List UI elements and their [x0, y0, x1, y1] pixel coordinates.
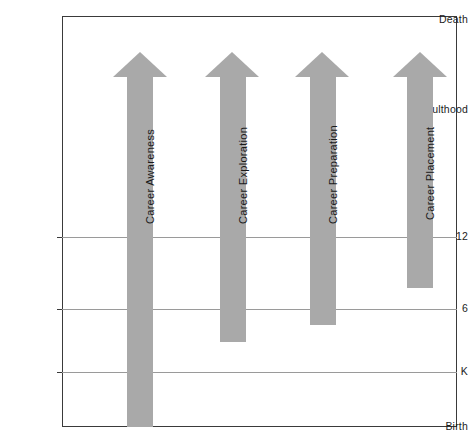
tick-grade-6 [57, 309, 62, 310]
arrowhead-career-placement [393, 52, 447, 77]
tick-grade-12 [57, 237, 62, 238]
ylabel-kindergarten: K [412, 366, 468, 377]
career-development-chart: Death Adulthood 12 6 K Birth Career Awar… [0, 0, 468, 442]
arrow-label-career-preparation: Career Preparation [327, 125, 339, 224]
arrow-label-career-exploration: Career Exploration [237, 127, 249, 224]
ylabel-grade-6: 6 [412, 303, 468, 314]
arrow-label-career-awareness: Career Awareness [144, 129, 156, 224]
gridline-kindergarten [62, 372, 457, 373]
gridline-grade-6 [62, 309, 457, 310]
ylabel-birth: Birth [412, 421, 468, 432]
plot-frame [62, 16, 457, 427]
ylabel-death: Death [412, 14, 468, 25]
arrowhead-career-preparation [295, 52, 349, 77]
arrowhead-career-exploration [205, 52, 259, 77]
tick-kindergarten [57, 372, 62, 373]
arrowhead-career-awareness [113, 52, 167, 77]
arrow-label-career-placement: Career Placement [424, 127, 436, 220]
gridline-grade-12 [62, 237, 457, 238]
